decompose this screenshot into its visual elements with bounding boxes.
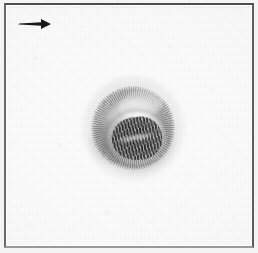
nucleocapsid-core xyxy=(110,115,164,163)
orientation-arrow xyxy=(18,17,52,31)
figure-caption xyxy=(0,0,1,1)
arrow-right-icon xyxy=(18,17,52,31)
virus-particle xyxy=(88,82,178,174)
scale-bar-label xyxy=(0,0,1,1)
micrograph-figure xyxy=(0,0,258,253)
arrow-label xyxy=(0,0,1,1)
plate-frame xyxy=(4,3,254,248)
